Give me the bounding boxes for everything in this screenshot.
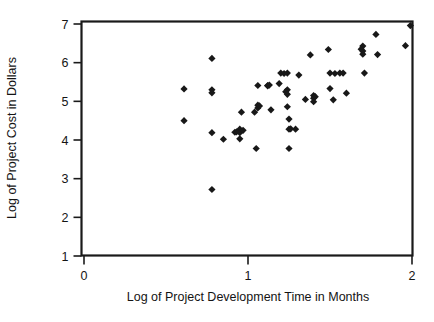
scatter-point [254,82,261,89]
y-tick-label: 7 [62,18,69,32]
y-tick-label: 4 [62,134,69,148]
scatter-point [330,96,337,103]
y-tick-label: 6 [62,56,69,70]
x-tick-label: 1 [245,269,252,283]
y-tick-label: 2 [62,211,69,225]
scatter-point [374,51,381,58]
scatter-point [180,85,187,92]
scatter-point [284,103,291,110]
scatter-point [361,70,368,77]
y-axis-ticks: 1234567 [62,18,82,264]
scatter-point [325,46,332,53]
plot-canvas: 1234567 012 Log of Project Development T… [0,0,434,322]
scatter-point [285,116,292,123]
scatter-point [253,145,260,152]
scatter-point [208,55,215,62]
scatter-point [208,129,215,136]
scatter-point [402,42,409,49]
scatter-point [302,96,309,103]
scatter-point [267,106,274,113]
scatter-point [208,186,215,193]
scatter-point [285,145,292,152]
y-tick-label: 5 [62,95,69,109]
scatter-point [326,85,333,92]
y-tick-label: 3 [62,172,69,186]
scatter-point [372,31,379,38]
scatter-point [276,80,283,87]
scatter-plot-figure: 1234567 012 Log of Project Development T… [0,0,434,322]
scatter-point [236,135,243,142]
y-tick-label: 1 [62,250,69,264]
scatter-point [220,136,227,143]
x-axis-ticks: 012 [81,256,416,283]
scatter-point [238,109,245,116]
scatter-point [343,90,350,97]
scatter-point [180,117,187,124]
scatter-point [295,71,302,78]
x-tick-label: 0 [81,269,88,283]
data-points [180,22,414,193]
scatter-point [307,51,314,58]
scatter-point [331,70,338,77]
x-tick-label: 2 [409,269,416,283]
x-axis-title: Log of Project Development Time in Month… [127,290,369,304]
y-axis-title: Log of Project Cost in Dollars [5,57,19,219]
